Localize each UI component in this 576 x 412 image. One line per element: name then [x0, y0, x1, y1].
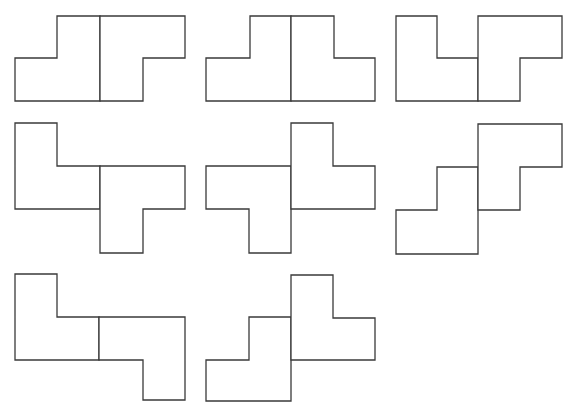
figure-2	[206, 16, 375, 101]
figure-1-piece-right	[100, 16, 185, 101]
figure-7	[15, 274, 185, 400]
figure-8	[206, 275, 375, 401]
figure-4-piece-left	[15, 123, 100, 209]
figure-8-piece-right	[291, 275, 375, 360]
figure-6-piece-right	[478, 124, 562, 210]
figure-5-piece-right	[291, 123, 375, 209]
figure-3	[396, 16, 562, 101]
figure-5-piece-left	[206, 166, 291, 253]
figure-3-piece-left	[396, 16, 478, 101]
figure-7-piece-left	[15, 274, 99, 360]
figure-4-piece-right	[100, 166, 185, 253]
figure-6-piece-left	[396, 167, 478, 254]
figure-5	[206, 123, 375, 253]
figure-6	[396, 124, 562, 254]
figure-8-piece-left	[206, 317, 291, 401]
figure-grid	[0, 0, 576, 412]
figure-2-piece-left	[206, 16, 291, 101]
figure-2-piece-right	[291, 16, 375, 101]
figure-3-piece-right	[478, 16, 562, 101]
figure-7-piece-right	[99, 317, 185, 400]
figure-1	[15, 16, 185, 101]
figure-1-piece-left	[15, 16, 100, 101]
figure-4	[15, 123, 185, 253]
